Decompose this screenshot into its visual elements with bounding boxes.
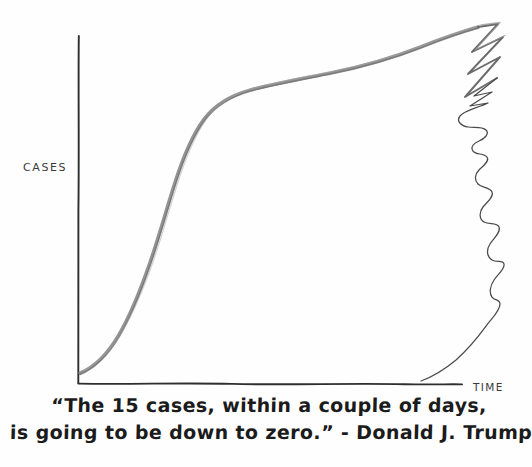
caption-line-1: “The 15 cases, within a couple of days, [0, 392, 532, 419]
peak-zigzag [465, 23, 505, 98]
x-axis-line [78, 383, 462, 384]
caption-line-2: is going to be down to zero.” - Donald J… [0, 419, 532, 446]
y-axis-line [78, 36, 79, 383]
y-axis-label: CASES [23, 161, 67, 174]
crash-to-zero-curve [421, 78, 504, 381]
cartoon-panel: CASES TIME “The 15 cases, within a coupl… [0, 0, 532, 467]
epidemic-growth-curve [80, 25, 480, 375]
caption: “The 15 cases, within a couple of days, … [0, 392, 532, 446]
